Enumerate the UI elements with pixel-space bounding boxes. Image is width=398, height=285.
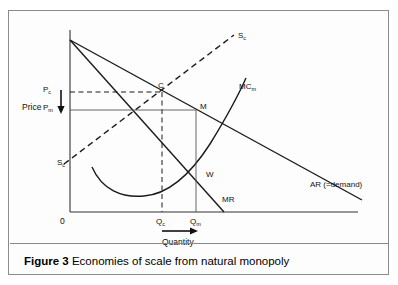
ar-label: AR (=demand) <box>310 181 362 189</box>
price-decrease-arrow <box>57 90 64 114</box>
sc-lower-label: Sc <box>57 159 65 167</box>
y-axis-label: Price <box>22 103 41 112</box>
figure-caption-text: Economies of scale from natural monopoly <box>72 255 289 267</box>
quantity-tick-qm: Qm <box>190 218 201 226</box>
sc-supply-curve <box>64 35 234 164</box>
quantity-tick-qm-subscript: m <box>196 221 201 227</box>
quantity-tick-qc-subscript: c <box>162 221 165 227</box>
point-m-label: M <box>200 103 207 111</box>
mcm-curve <box>92 78 246 196</box>
price-tick-pc: Pc <box>43 86 51 94</box>
point-c-label: C <box>158 82 164 90</box>
price-tick-pm: Pm <box>43 104 53 112</box>
figure-caption: Figure 3 Economies of scale from natural… <box>24 255 289 267</box>
mcm-label-subscript: m <box>251 86 256 92</box>
figure-frame: Price Pc Pm 0 Qc Qm Quantity Sc Sc MCm M… <box>8 10 389 275</box>
origin-label: 0 <box>60 217 65 226</box>
chart-area: Price Pc Pm 0 Qc Qm Quantity Sc Sc MCm M… <box>10 12 389 242</box>
figure-inner: Price Pc Pm 0 Qc Qm Quantity Sc Sc MCm M… <box>10 12 387 273</box>
sc-lower-label-subscript: c <box>62 162 65 168</box>
caption-divider <box>10 243 389 244</box>
sc-upper-label-subscript: c <box>243 35 246 41</box>
mcm-label-text: MC <box>239 82 251 91</box>
price-tick-pc-subscript: c <box>48 89 51 95</box>
quantity-tick-qc: Qc <box>156 218 165 226</box>
mcm-label: MCm <box>239 83 256 91</box>
mr-label: MR <box>222 196 234 204</box>
sc-upper-label: Sc <box>238 32 246 40</box>
price-tick-pm-subscript: m <box>48 107 53 113</box>
ar-demand-curve <box>70 40 362 200</box>
economics-diagram <box>10 12 389 242</box>
point-w-label: W <box>206 171 214 179</box>
figure-caption-label: Figure 3 <box>24 255 69 267</box>
mr-curve <box>70 40 224 212</box>
quantity-increase-arrow <box>162 227 198 234</box>
